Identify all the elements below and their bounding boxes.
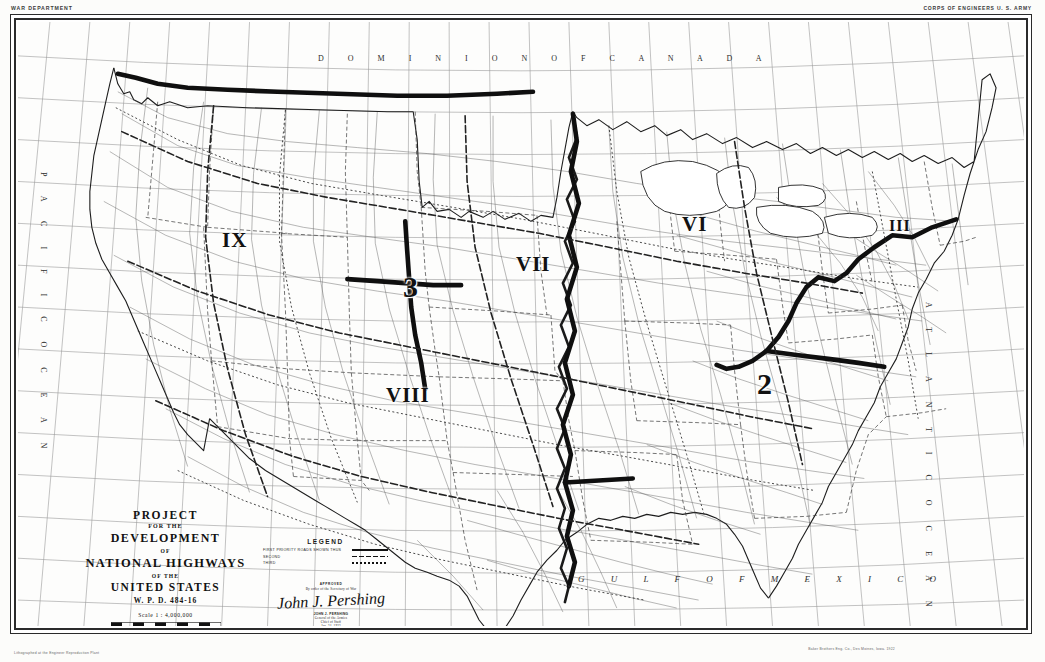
approval-heading: APPROVED: [276, 582, 386, 586]
legend-swatch-third: [344, 560, 388, 566]
title-line-development: DEVELOPMENT: [73, 531, 258, 546]
title-line-for-the: FOR THE: [73, 523, 258, 529]
scale-bar: STATUTE MILES: [111, 621, 221, 626]
title-line-of: OF: [73, 548, 258, 554]
legend-block: LEGEND FIRST PRIORITY ROADS SHOWN THUS S…: [263, 538, 388, 566]
approval-block: APPROVED By order of the Secretary of Wa…: [276, 582, 386, 626]
route-marker-2: 2: [757, 369, 772, 399]
title-line-project: PROJECT: [73, 509, 258, 521]
scale-label: Scale 1 : 4,000,000: [73, 612, 258, 618]
label-gulf-of-mexico: G U L F O F M E X I C O: [578, 574, 948, 584]
document-number: W. P. D. 484-16: [73, 596, 258, 605]
printer-credit-right: Baker Brothers Eng. Co., Des Moines, Iow…: [808, 647, 895, 651]
map-sheet: WAR DEPARTMENT CORPS OF ENGINEERS U. S. …: [0, 0, 1045, 662]
signature-pershing: John J. Pershing: [276, 589, 387, 613]
route-marker-3: 3: [403, 272, 418, 302]
map-neatline-frame: D O M I N I O N O F C A N A D A G U L F …: [10, 14, 1032, 634]
district-marker-vii: VII: [516, 254, 551, 275]
title-line-of-the: OF THE: [73, 573, 258, 579]
legend-row: THIRD: [263, 560, 388, 566]
label-atlantic-ocean: A T L A N T I C O C E A N: [924, 302, 933, 615]
district-marker-ix: IX: [222, 230, 247, 251]
district-marker-viii: VIII: [386, 385, 430, 406]
legend-title: LEGEND: [263, 538, 388, 545]
printer-credit-left: Lithographed at the Engineer Reproductio…: [14, 651, 99, 655]
label-pacific-ocean: P A C I F I C O C E A N: [39, 172, 48, 457]
title-line-united-states: UNITED STATES: [73, 581, 258, 593]
legend-label-third: THIRD: [263, 560, 344, 566]
label-dominion-of-canada: D O M I N I O N O F C A N A D A: [318, 54, 773, 63]
legend-table: FIRST PRIORITY ROADS SHOWN THUS SECOND T…: [263, 547, 388, 566]
corps-of-engineers-caption: CORPS OF ENGINEERS U. S. ARMY: [923, 5, 1032, 11]
approval-date: Jan. 24, 1922: [276, 624, 386, 626]
war-department-caption: WAR DEPARTMENT: [11, 5, 73, 11]
map-canvas: D O M I N I O N O F C A N A D A G U L F …: [18, 22, 1024, 626]
district-marker-vi: VI: [682, 214, 707, 235]
district-marker-iii: III: [889, 218, 911, 234]
title-line-national-highways: NATIONAL HIGHWAYS: [73, 556, 258, 571]
title-block: PROJECT FOR THE DEVELOPMENT OF NATIONAL …: [73, 509, 258, 626]
